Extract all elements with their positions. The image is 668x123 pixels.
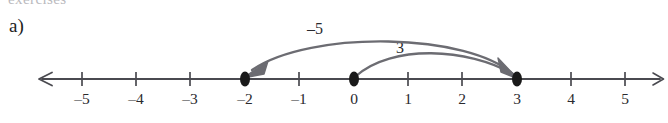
tick-label-4: 4 bbox=[567, 90, 575, 107]
jump-arc-minus-five: –5 bbox=[243, 20, 515, 78]
number-line-diagram: –5 –4 –3 –2 –1 0 1 2 3 4 5 3 –5 bbox=[0, 0, 668, 123]
jump-arc-minus-five-label: –5 bbox=[306, 20, 323, 37]
tick-label--4: –4 bbox=[127, 90, 144, 107]
axis-tick-labels: –5 –4 –3 –2 –1 0 1 2 3 4 5 bbox=[73, 90, 629, 107]
point-marker--2 bbox=[240, 72, 250, 87]
tick-label-1: 1 bbox=[404, 90, 412, 107]
tick-label--1: –1 bbox=[290, 90, 307, 107]
point-marker-0 bbox=[349, 72, 359, 87]
point-marker-3 bbox=[512, 72, 522, 87]
tick-label--2: –2 bbox=[236, 90, 253, 107]
tick-label-0: 0 bbox=[350, 90, 358, 107]
tick-label-3: 3 bbox=[513, 90, 521, 107]
tick-label--3: –3 bbox=[181, 90, 198, 107]
tick-label-2: 2 bbox=[458, 90, 466, 107]
tick-label-5: 5 bbox=[621, 90, 629, 107]
jump-arc-plus-three-path bbox=[356, 53, 513, 76]
tick-label--5: –5 bbox=[73, 90, 90, 107]
